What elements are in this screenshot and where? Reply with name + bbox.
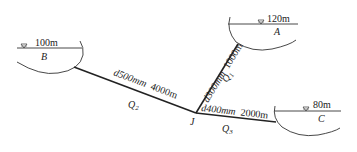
reservoir-b-label: B xyxy=(41,51,47,62)
reservoir-a-label: A xyxy=(273,26,281,37)
reservoir-diagram: 100m B 120m A 80m C d500mm4000m Q2 d300m… xyxy=(0,0,357,152)
reservoir-c-basin xyxy=(274,106,340,136)
reservoir-c: 80m C xyxy=(274,99,341,136)
pipe-a-j-length: 1000m xyxy=(221,41,245,71)
flow-q2: Q2 xyxy=(128,99,139,112)
flow-q3: Q3 xyxy=(222,123,233,136)
elevation-b: 100m xyxy=(35,37,58,48)
elevation-c: 80m xyxy=(313,99,331,110)
reservoir-b: 100m B xyxy=(17,37,83,74)
svg-text:d500mm4000m: d500mm4000m xyxy=(112,67,179,101)
elevation-a: 120m xyxy=(267,13,290,24)
pipe-b-j-diameter: d500mm xyxy=(112,67,148,89)
reservoir-c-label: C xyxy=(318,113,325,124)
junction-label: J xyxy=(190,116,195,127)
